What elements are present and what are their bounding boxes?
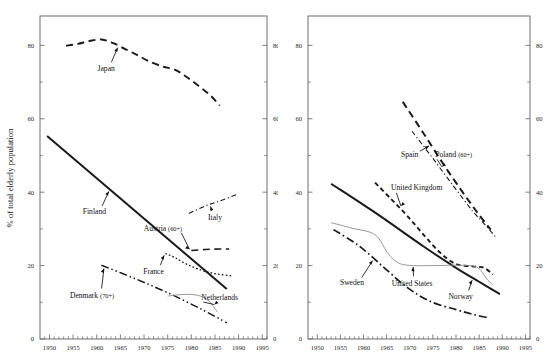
x-tick-label: 1975	[161, 344, 175, 351]
series-label-norway: Norway	[448, 292, 473, 301]
series-label-sweden: Sweden	[340, 278, 364, 287]
x-tick-label: 1955	[334, 344, 348, 351]
leader-line-united-kingdom	[396, 193, 401, 206]
leader-arrow-norway	[469, 280, 473, 284]
leader-line-austria-60	[181, 233, 189, 249]
label-main: France	[143, 267, 164, 276]
y-tick-label: 0	[31, 335, 35, 342]
label-main: Spain	[401, 150, 419, 159]
x-tick-label: 1995	[519, 344, 533, 351]
y-tick-label: 0	[299, 335, 303, 342]
series-label-united-states: United States	[392, 279, 433, 288]
series-label-japan: Japan	[98, 64, 115, 73]
series-label-austria-60: Austria (60+)	[144, 224, 182, 233]
series-label-denmark-70: Denmark (70+)	[70, 291, 114, 300]
x-tick-label: 1960	[357, 344, 371, 351]
label-main: Norway	[448, 292, 473, 301]
y-tick-label-right: 0	[273, 335, 277, 342]
label-main: United States	[392, 279, 433, 288]
y-tick-label: 20	[295, 262, 302, 269]
series-line-japan	[66, 39, 220, 105]
series-line-italy	[189, 195, 236, 214]
label-main: Poland	[435, 150, 458, 159]
series-label-netherlands: Netherlands	[201, 293, 238, 302]
y-axis-title: % of total elderly population	[5, 128, 15, 228]
leader-arrow-sweden	[369, 261, 373, 265]
label-main: Italy	[208, 213, 222, 222]
y-tick-label-right: 20	[536, 262, 543, 269]
series-line-finland	[47, 136, 227, 289]
series-group	[47, 39, 236, 322]
y-tick-label: 20	[27, 262, 34, 269]
label-sub: (60+)	[168, 225, 182, 233]
y-tick-label: 80	[27, 42, 34, 49]
x-tick-label: 1965	[114, 344, 128, 351]
leader-arrow-united-kingdom	[401, 202, 405, 206]
x-tick-label: 1980	[449, 344, 463, 351]
label-sub: (60+)	[458, 151, 472, 159]
x-tick-label: 1960	[90, 344, 104, 351]
y-tick-label: 80	[295, 42, 302, 49]
figure-container: 1950195519601965197019751980198519901995…	[0, 0, 557, 364]
y-tick-label: 60	[295, 115, 302, 122]
x-axis: 1950195519601965197019751980198519901995	[311, 335, 533, 352]
x-tick-label: 1965	[380, 344, 394, 351]
x-tick-label: 1950	[311, 344, 325, 351]
series-label-france: France	[143, 267, 164, 276]
series-label-spain: Spain	[401, 150, 419, 159]
label-sub: (70+)	[100, 292, 114, 300]
label-main: Denmark	[70, 291, 100, 300]
y-axis: 002020404060608080	[27, 42, 278, 343]
leader-arrow-italy	[210, 206, 213, 210]
leader-line-netherlands	[203, 302, 214, 305]
label-main: Austria	[144, 224, 168, 233]
label-main: United Kingdom	[391, 183, 442, 192]
x-axis: 1950195519601965197019751980198519901995	[43, 335, 270, 352]
series-line-united-kingdom	[375, 183, 493, 275]
x-tick-label: 1955	[67, 344, 81, 351]
series-line-spain	[403, 102, 491, 230]
annotations: SpainPoland (60+)United KingdomNorwayUni…	[340, 146, 473, 301]
y-tick-label-right: 80	[536, 42, 543, 49]
series-label-united-kingdom: United Kingdom	[391, 183, 442, 192]
y-tick-label: 40	[27, 189, 34, 196]
x-tick-label: 1975	[426, 344, 440, 351]
x-tick-label: 1990	[232, 344, 246, 351]
label-main: Netherlands	[201, 293, 238, 302]
x-tick-label: 1990	[496, 344, 510, 351]
line-chart-left: 1950195519601965197019751980198519901995…	[0, 0, 278, 364]
series-label-poland-60: Poland (60+)	[435, 150, 472, 159]
plot-frame	[308, 16, 530, 339]
leader-arrow-denmark-70	[101, 269, 104, 273]
x-tick-label: 1970	[403, 344, 417, 351]
y-tick-label-right: 60	[536, 115, 543, 122]
x-tick-label: 1985	[208, 344, 222, 351]
series-label-italy: Italy	[208, 213, 222, 222]
y-tick-label: 60	[27, 115, 34, 122]
label-main: Japan	[98, 64, 115, 73]
series-label-finland: Finland	[83, 207, 106, 216]
x-tick-label: 1950	[43, 344, 57, 351]
x-tick-label: 1995	[256, 344, 270, 351]
label-main: Finland	[83, 207, 106, 216]
x-tick-label: 1985	[473, 344, 487, 351]
label-main: Sweden	[340, 278, 364, 287]
chart-panel-left: 1950195519601965197019751980198519901995…	[0, 0, 278, 364]
y-tick-label-right: 40	[536, 189, 543, 196]
line-chart-right: 1950195519601965197019751980198519901995…	[278, 0, 557, 364]
y-tick-label: 40	[295, 189, 302, 196]
series-line-austria-60	[191, 249, 229, 250]
leader-arrow-united-states	[411, 267, 414, 271]
chart-panel-right: 1950195519601965197019751980198519901995…	[278, 0, 557, 364]
x-tick-label: 1980	[185, 344, 199, 351]
y-tick-label-right: 0	[536, 335, 540, 342]
x-tick-label: 1970	[137, 344, 151, 351]
